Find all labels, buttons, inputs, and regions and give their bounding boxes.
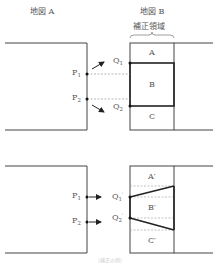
point-q1-prime <box>129 196 132 199</box>
point-q1-top <box>129 62 132 65</box>
point-p2-bottom <box>86 221 89 224</box>
map-a-label: 地図 A <box>30 5 54 16</box>
region-c-label: C <box>149 112 155 121</box>
map-a-outline-bottom <box>5 166 87 253</box>
correction-brace <box>130 32 174 38</box>
figure-caption: （補正の例） <box>60 256 160 263</box>
label-q2-top: Q2 <box>113 102 123 112</box>
point-q2-top <box>129 105 132 108</box>
region-b-label: B <box>149 80 155 89</box>
map-b-label: 地図 B <box>140 5 164 16</box>
region-b-prime-label: B′ <box>148 203 156 212</box>
label-q2-prime: Q2′ <box>112 212 123 223</box>
trapezoid-bottom-edge <box>130 218 174 230</box>
label-q1-top: Q1 <box>113 56 123 66</box>
correction-region-label: 補正領域 <box>133 20 165 31</box>
label-q1-prime: Q1′ <box>112 191 123 202</box>
bottom-diagram <box>5 166 213 253</box>
region-a-label: A <box>149 48 155 57</box>
point-p2-top <box>86 98 89 101</box>
label-p1-bottom: P1 <box>72 191 81 201</box>
arrow-down-icon <box>92 105 104 112</box>
trapezoid-top-edge <box>130 186 174 197</box>
region-a-prime-label: A′ <box>148 172 156 181</box>
point-p1-top <box>86 73 89 76</box>
point-q2-prime <box>129 217 132 220</box>
label-p2-bottom: P2 <box>72 216 81 226</box>
map-a-outline-top <box>5 43 87 130</box>
top-diagram <box>5 32 213 130</box>
arrow-up-icon <box>92 62 104 69</box>
diagram-canvas <box>0 0 213 267</box>
region-c-prime-label: C′ <box>148 236 156 245</box>
point-p1-bottom <box>86 196 89 199</box>
label-p2-top: P2 <box>72 93 81 103</box>
label-p1-top: P1 <box>72 68 81 78</box>
